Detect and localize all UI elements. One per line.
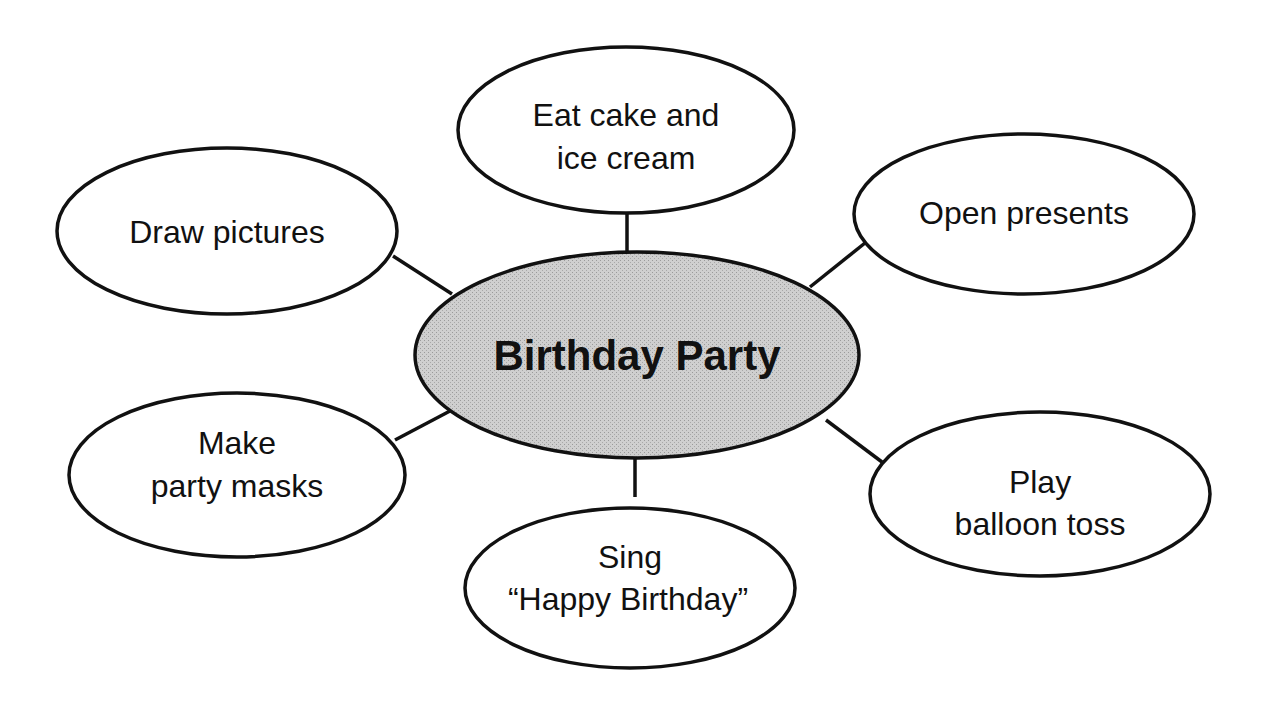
- node-open-presents: Open presents: [854, 134, 1194, 294]
- node-sing-happy-birthday: Sing “Happy Birthday”: [465, 508, 795, 668]
- node-label-line: Open presents: [919, 195, 1129, 231]
- node-draw-pictures: Draw pictures: [57, 148, 397, 314]
- concept-web-diagram: Birthday Party Eat cake and ice cream Op…: [0, 0, 1266, 708]
- node-make-party-masks: Make party masks: [69, 393, 405, 557]
- node-label-line: Eat cake and: [533, 97, 720, 133]
- node-label-line: balloon toss: [955, 506, 1126, 542]
- node-label-line: Play: [1009, 464, 1071, 500]
- node-label-line: Sing: [598, 539, 662, 575]
- node-label-line: Draw pictures: [129, 214, 325, 250]
- node-label-line: party masks: [151, 468, 323, 504]
- connector-play-balloon-toss: [826, 420, 882, 462]
- node-label-line: ice cream: [557, 140, 696, 176]
- node-label-line: Make: [198, 425, 276, 461]
- connector-draw-pictures: [393, 256, 452, 294]
- center-label: Birthday Party: [493, 332, 781, 379]
- node-eat-cake: Eat cake and ice cream: [458, 47, 794, 213]
- connector-open-presents: [810, 243, 865, 287]
- connector-make-party-masks: [395, 411, 450, 440]
- center-node: Birthday Party: [415, 252, 859, 458]
- node-play-balloon-toss: Play balloon toss: [870, 412, 1210, 576]
- node-label-line: “Happy Birthday”: [508, 581, 748, 617]
